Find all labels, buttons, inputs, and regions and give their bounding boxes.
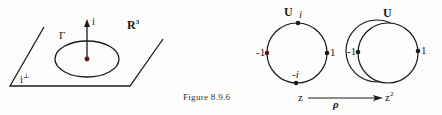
map-name-rho: ρ [333, 99, 339, 110]
map-from-label: z [298, 92, 303, 103]
top-label-i: i [299, 9, 302, 20]
bottom-label-minus-i: -i [292, 69, 299, 80]
plane-label: i⊥ [20, 73, 30, 85]
circle-u-outline [358, 23, 418, 83]
u-right-label-1: 1 [421, 45, 427, 56]
circle-u-title: U [383, 7, 392, 19]
map-to-label: z2 [385, 91, 393, 103]
figure-caption: Figure 8.9.6 [183, 93, 230, 102]
circle-u-i-title: U [284, 6, 293, 18]
right-label-1: 1 [330, 47, 336, 58]
vector-i-label: i [92, 16, 95, 27]
left-label-minus-1: -1 [256, 47, 265, 58]
u-point-minus-1-marker [356, 50, 361, 55]
u-left-label-minus-1: -1 [347, 46, 356, 57]
space-label: R3 [127, 19, 139, 31]
u-point-1-marker [416, 49, 421, 54]
gamma-label: Γ [59, 30, 65, 41]
